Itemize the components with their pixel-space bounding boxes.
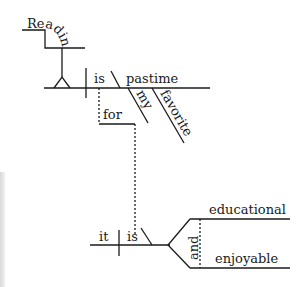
predicate-slant xyxy=(111,71,120,88)
word-for: for xyxy=(103,107,123,122)
sentence-diagram: Reading is pastime my favorite for it is… xyxy=(0,0,304,287)
pedestal-fork xyxy=(54,77,70,88)
word-is-main: is xyxy=(94,71,105,86)
word-pastime: pastime xyxy=(126,71,178,86)
word-reading: Reading xyxy=(0,0,74,49)
subordinate-slant xyxy=(141,228,152,245)
word-and: and xyxy=(186,236,201,260)
word-it: it xyxy=(99,229,109,244)
diagram-lines: Reading is pastime my favorite for it is… xyxy=(0,0,304,287)
word-is-sub: is xyxy=(127,229,138,244)
word-educational: educational xyxy=(209,202,286,217)
word-enjoyable: enjoyable xyxy=(215,251,278,266)
